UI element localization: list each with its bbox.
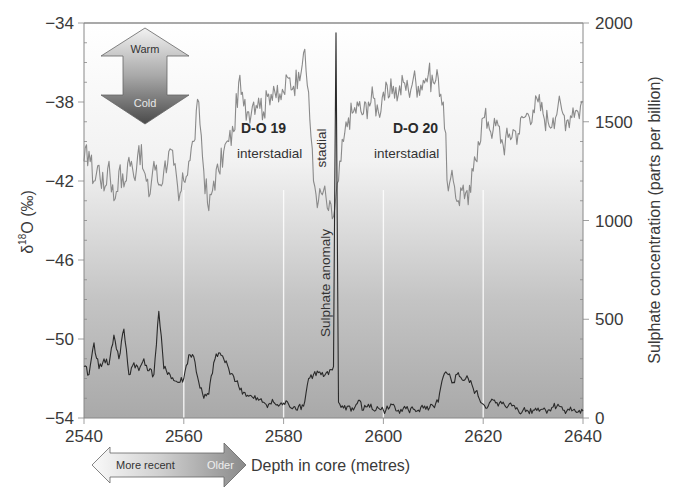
do20-title: D-O 20	[393, 120, 438, 136]
warm-label: Warm	[131, 43, 160, 55]
depth-direction-arrow: More recent Older	[92, 443, 246, 487]
y-axis-left-title-rest: O (‰)	[19, 190, 36, 234]
y-left-tick-label: −38	[45, 93, 74, 112]
y-left-tick-label: −46	[45, 251, 74, 270]
do19-subtitle: interstadial	[237, 146, 302, 161]
y-right-tick-label: 2000	[595, 14, 633, 33]
do20-subtitle: interstadial	[374, 146, 439, 161]
older-label: Older	[207, 459, 234, 471]
y-axis-right-title: Sulphate concentration (parts per billio…	[646, 76, 663, 363]
do19-title: D-O 19	[241, 120, 286, 136]
x-tick-label: 2620	[464, 427, 502, 446]
delta-symbol: δ	[19, 245, 36, 254]
cold-label: Cold	[134, 97, 157, 109]
x-tick-label: 2540	[65, 427, 103, 446]
y-right-tick-label: 1500	[595, 113, 633, 132]
x-tick-label: 2580	[265, 427, 303, 446]
x-tick-label: 2560	[165, 427, 203, 446]
y-left-tick-label: −42	[45, 172, 74, 191]
ice-core-chart: Warm Cold More recent Older Depth in cor…	[0, 0, 673, 500]
x-tick-label: 2600	[364, 427, 402, 446]
stadial-label: stadial	[314, 128, 329, 167]
y-right-tick-label: 1000	[595, 212, 633, 231]
y-right-tick-label: 500	[595, 310, 623, 329]
y-left-tick-label: −34	[45, 14, 74, 33]
y-right-tick-label: 0	[595, 409, 604, 428]
y-axis-left-title: δ18O (‰)	[17, 190, 36, 254]
y-left-tick-label: −54	[45, 409, 74, 428]
superscript-18: 18	[17, 233, 28, 245]
x-tick-label: 2640	[564, 427, 602, 446]
x-axis-title: Depth in core (metres)	[251, 457, 410, 474]
y-left-tick-label: −50	[45, 330, 74, 349]
more-recent-label: More recent	[116, 459, 175, 471]
sulphate-anomaly-label: Sulphate anomaly	[318, 229, 333, 337]
